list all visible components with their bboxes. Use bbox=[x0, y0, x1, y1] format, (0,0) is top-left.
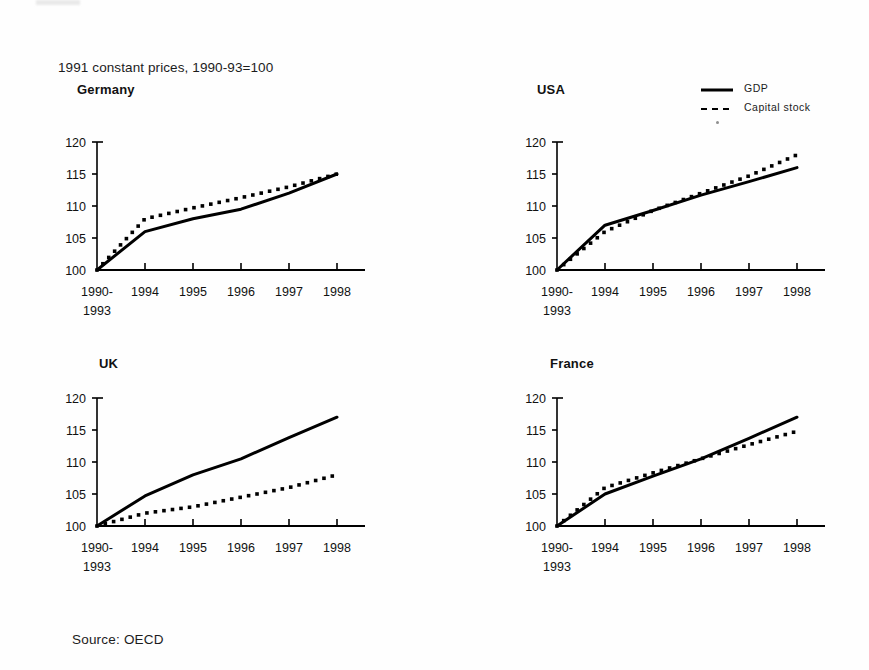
x-tick-label: 1990- bbox=[541, 541, 573, 555]
x-tick-label: 1998 bbox=[783, 541, 811, 555]
legend-label-gdp: GDP bbox=[744, 82, 768, 94]
x-tick-label: 1998 bbox=[783, 285, 811, 299]
y-tick-label: 100 bbox=[525, 264, 546, 278]
x-tick-label: 1990- bbox=[541, 285, 573, 299]
x-tick-label: 1990- bbox=[81, 285, 113, 299]
series-line-gdp bbox=[557, 417, 797, 526]
x-axis bbox=[97, 263, 365, 270]
chart-page: 1991 constant prices, 1990-93=100 GDP Ca… bbox=[0, 0, 869, 670]
y-tick-label: 115 bbox=[526, 168, 546, 182]
legend-entry-gdp: GDP bbox=[700, 78, 865, 97]
x-tick-label-second-line: 1993 bbox=[83, 304, 111, 318]
x-tick-group: 1990-199419951996199719981993 bbox=[541, 541, 811, 574]
scan-artifact-top bbox=[36, 0, 80, 5]
x-tick-label: 1995 bbox=[179, 541, 207, 555]
x-tick-label: 1994 bbox=[591, 541, 619, 555]
x-tick-label: 1995 bbox=[179, 285, 207, 299]
source-note: Source: OECD bbox=[72, 632, 164, 647]
x-tick-label: 1997 bbox=[735, 541, 763, 555]
series-line-gdp bbox=[97, 174, 337, 270]
series-line-gdp bbox=[557, 168, 797, 270]
y-tick-label: 105 bbox=[65, 488, 86, 502]
x-tick-label-second-line: 1993 bbox=[543, 560, 571, 574]
panel-title-uk: UK bbox=[99, 356, 118, 371]
y-tick-label: 120 bbox=[525, 136, 546, 150]
y-axis bbox=[97, 398, 103, 526]
x-tick-label: 1997 bbox=[275, 285, 303, 299]
y-tick-label: 100 bbox=[525, 520, 546, 534]
y-tick-label: 115 bbox=[66, 424, 86, 438]
y-tick-label: 115 bbox=[66, 168, 86, 182]
plot-france: 1001051101151201990-19941995199619971998… bbox=[500, 376, 825, 595]
chart-canvas: 1001051101151201990-19941995199619971998… bbox=[40, 376, 365, 591]
y-tick-label: 120 bbox=[525, 392, 546, 406]
y-tick-label: 100 bbox=[65, 264, 86, 278]
x-tick-label: 1996 bbox=[687, 285, 715, 299]
series-line-gdp bbox=[97, 417, 337, 526]
legend-dashed-line-icon bbox=[700, 101, 734, 113]
x-tick-group: 1990-199419951996199719981993 bbox=[81, 285, 351, 318]
panel-title-france: France bbox=[550, 356, 594, 371]
panel-title-usa: USA bbox=[537, 82, 565, 97]
y-tick-label: 110 bbox=[66, 456, 86, 470]
x-tick-label: 1997 bbox=[275, 541, 303, 555]
y-tick-label: 105 bbox=[525, 488, 546, 502]
y-tick-label: 105 bbox=[525, 232, 546, 246]
chart-units-caption: 1991 constant prices, 1990-93=100 bbox=[58, 60, 273, 75]
chart-canvas: 1001051101151201990-19941995199619971998… bbox=[40, 120, 365, 335]
plot-uk: 1001051101151201990-19941995199619971998… bbox=[40, 376, 365, 595]
y-tick-label: 100 bbox=[65, 520, 86, 534]
chart-canvas: 1001051101151201990-19941995199619971998… bbox=[500, 120, 825, 335]
x-tick-label: 1994 bbox=[591, 285, 619, 299]
chart-canvas: 1001051101151201990-19941995199619971998… bbox=[500, 376, 825, 591]
y-tick-group: 100105110115120 bbox=[525, 392, 557, 534]
legend-entry-capital-stock: Capital stock bbox=[700, 97, 865, 116]
plot-usa: 1001051101151201990-19941995199619971998… bbox=[500, 120, 825, 339]
x-tick-label: 1995 bbox=[639, 541, 667, 555]
y-tick-group: 100105110115120 bbox=[525, 136, 557, 278]
legend-solid-line-icon bbox=[700, 82, 734, 94]
y-axis bbox=[557, 142, 563, 270]
x-tick-label-second-line: 1993 bbox=[543, 304, 571, 318]
x-tick-label: 1996 bbox=[687, 541, 715, 555]
y-tick-label: 120 bbox=[65, 392, 86, 406]
x-tick-label: 1998 bbox=[323, 285, 351, 299]
chart-legend: GDP Capital stock bbox=[700, 78, 865, 116]
x-tick-label: 1998 bbox=[323, 541, 351, 555]
x-axis bbox=[557, 519, 825, 526]
series-line-capital-stock bbox=[95, 474, 334, 528]
x-tick-group: 1990-199419951996199719981993 bbox=[541, 285, 811, 318]
y-tick-label: 105 bbox=[65, 232, 86, 246]
x-tick-label: 1994 bbox=[131, 285, 159, 299]
plot-germany: 1001051101151201990-19941995199619971998… bbox=[40, 120, 365, 339]
y-tick-label: 120 bbox=[65, 136, 86, 150]
x-tick-label: 1990- bbox=[81, 541, 113, 555]
y-tick-label: 110 bbox=[526, 456, 546, 470]
y-tick-label: 110 bbox=[66, 200, 86, 214]
series-line-capital-stock bbox=[555, 154, 797, 272]
y-axis bbox=[557, 398, 563, 526]
x-tick-label: 1997 bbox=[735, 285, 763, 299]
series-line-capital-stock bbox=[555, 430, 795, 527]
x-tick-label: 1996 bbox=[227, 541, 255, 555]
y-tick-group: 100105110115120 bbox=[65, 136, 97, 278]
y-axis bbox=[97, 142, 103, 270]
x-tick-group: 1990-199419951996199719981993 bbox=[81, 541, 351, 574]
x-tick-label: 1994 bbox=[131, 541, 159, 555]
x-axis bbox=[97, 519, 365, 526]
y-tick-group: 100105110115120 bbox=[65, 392, 97, 534]
legend-label-capital-stock: Capital stock bbox=[744, 101, 811, 113]
x-tick-label: 1995 bbox=[639, 285, 667, 299]
panel-title-germany: Germany bbox=[77, 82, 135, 97]
y-tick-label: 110 bbox=[526, 200, 546, 214]
x-tick-label-second-line: 1993 bbox=[83, 560, 111, 574]
x-tick-label: 1996 bbox=[227, 285, 255, 299]
x-axis bbox=[557, 263, 825, 270]
y-tick-label: 115 bbox=[526, 424, 546, 438]
